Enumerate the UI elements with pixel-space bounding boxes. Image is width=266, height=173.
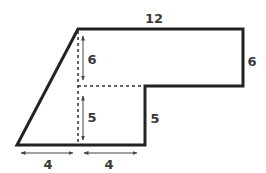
composite-shape-diagram: 12 6 6 5 5 4 4 bbox=[0, 0, 266, 173]
shape-outline bbox=[17, 29, 243, 145]
label-right-height: 6 bbox=[247, 54, 256, 69]
label-top-length: 12 bbox=[145, 11, 163, 26]
label-bottom-right: 4 bbox=[104, 157, 113, 172]
label-upper-height: 6 bbox=[87, 52, 96, 67]
label-inner-vertical: 5 bbox=[150, 111, 159, 126]
label-lower-height: 5 bbox=[87, 110, 96, 125]
label-bottom-left: 4 bbox=[43, 157, 52, 172]
